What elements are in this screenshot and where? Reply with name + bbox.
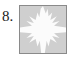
figure-item: 8. (0, 0, 72, 59)
star-shape-path (20, 6, 66, 53)
jagged-four-pointed-star-icon (20, 6, 66, 53)
shape-tile[interactable] (19, 5, 67, 54)
item-number-label: 8. (2, 7, 18, 25)
